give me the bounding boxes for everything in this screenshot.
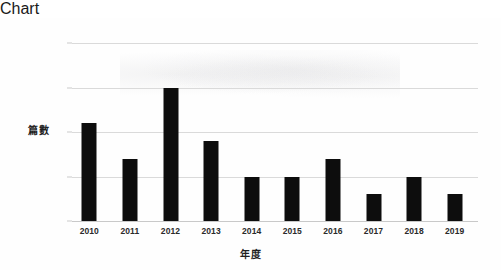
x-axis-tick-label: 2015: [272, 226, 312, 236]
bar: [285, 177, 300, 222]
bar: [82, 123, 97, 221]
x-axis-title: 年度: [0, 246, 501, 261]
bar: [204, 141, 219, 221]
x-axis-tick-label: 2012: [151, 226, 191, 236]
gridline: [72, 221, 478, 222]
plot-area: 05101520: [72, 43, 478, 221]
bar: [447, 194, 462, 221]
x-axis-tick-label: 2017: [354, 226, 394, 236]
x-axis-tick-label: 2013: [191, 226, 231, 236]
x-axis-tick-label: 2018: [394, 226, 434, 236]
bar-chart: 篇數 05101520 2010201120122013201420152016…: [0, 18, 501, 270]
bar: [122, 159, 137, 221]
bar: [244, 177, 259, 222]
bar: [366, 194, 381, 221]
x-axis-tick-label: 2014: [232, 226, 272, 236]
bar: [163, 88, 178, 222]
x-axis-tick-label: 2011: [110, 226, 150, 236]
x-axis-tick-label: 2010: [69, 226, 109, 236]
bar: [407, 177, 422, 222]
x-axis-tick-label: 2019: [435, 226, 475, 236]
bar: [325, 159, 340, 221]
x-axis-tick-label: 2016: [313, 226, 353, 236]
bar-series: [72, 43, 478, 221]
y-axis-title: 篇數: [28, 122, 49, 137]
